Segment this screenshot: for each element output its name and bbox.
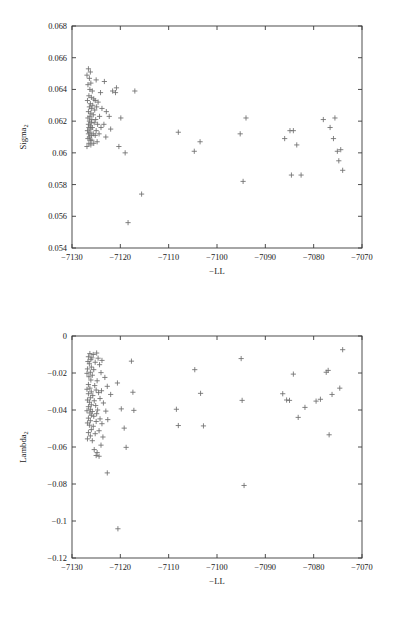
x-tick-label: −7090 [255,563,276,572]
x-tick-label: −7100 [206,563,227,572]
data-point-marker [280,391,285,396]
data-point-marker [84,73,89,78]
data-point-marker [98,90,103,95]
data-point-marker [118,115,123,120]
y-tick-label: 0.056 [48,212,67,221]
y-tick-label: −0.1 [52,517,67,526]
y-axis-label: Sigma2 [18,124,29,149]
figure-page: −7130−7120−7110−7100−7090−7080−70700.054… [0,0,393,621]
data-point-marker [192,149,197,154]
data-point-marker [241,483,246,488]
data-point-marker [238,131,243,136]
data-point-marker [99,106,104,111]
data-point-marker [102,79,107,84]
svg-text:Lambda2: Lambda2 [18,431,29,462]
x-tick-label: −7100 [206,253,227,262]
data-point-marker [198,391,203,396]
data-point-marker [289,172,294,177]
data-point-marker [103,409,108,414]
data-point-marker [85,436,90,441]
data-point-marker [124,445,129,450]
data-point-marker [174,407,179,412]
data-point-marker [105,384,110,389]
data-point-marker [282,136,287,141]
data-point-marker [105,470,110,475]
data-point-marker [99,421,104,426]
data-point-marker [115,526,120,531]
data-point-marker [97,396,102,401]
data-point-marker [92,383,97,388]
data-point-marker [337,386,342,391]
data-point-marker [96,428,101,433]
y-tick-label: −0.06 [48,443,67,452]
x-tick-label: −7070 [351,253,372,262]
data-point-marker [332,115,337,120]
data-point-marker [102,375,107,380]
scatter-plot-sigma2: −7130−7120−7110−7100−7090−7080−70700.054… [0,0,393,310]
x-tick-label: −7130 [61,253,82,262]
data-point-marker [336,158,341,163]
y-tick-label: 0.06 [52,149,67,158]
data-point-marker [95,407,100,412]
svg-text:Sigma2: Sigma2 [18,124,29,149]
data-point-marker [125,220,130,225]
data-point-marker [90,438,95,443]
data-point-marker [243,115,248,120]
data-point-marker [92,447,97,452]
data-point-marker [84,387,89,392]
data-point-marker [105,417,110,422]
data-point-marker [287,398,292,403]
x-axis-label: −LL [209,266,224,276]
x-tick-label: −7090 [255,253,276,262]
y-tick-label: 0.054 [48,244,68,253]
data-point-marker [104,109,109,114]
x-tick-label: −7080 [303,563,324,572]
data-point-marker [299,172,304,177]
data-point-group [84,66,345,225]
data-point-marker [101,400,106,405]
data-point-marker [87,76,92,81]
data-point-marker [291,128,296,133]
data-point-marker [94,77,99,82]
data-point-marker [92,398,97,403]
x-tick-label: −7110 [158,253,179,262]
data-point-marker [116,144,121,149]
chart-panel-sigma2: −7130−7120−7110−7100−7090−7080−70700.054… [0,0,393,310]
x-tick-label: −7110 [158,563,179,572]
data-point-marker [129,359,134,364]
data-point-marker [131,408,136,413]
data-point-marker [328,125,333,130]
y-tick-label: 0.062 [48,117,67,126]
data-point-marker [108,126,113,131]
data-point-marker [192,367,197,372]
data-point-marker [98,443,103,448]
y-tick-label: 0.064 [48,85,68,94]
data-point-marker [201,423,206,428]
data-point-marker [132,88,137,93]
y-tick-label: 0.058 [48,181,67,190]
x-tick-label: −7080 [303,253,324,262]
data-point-marker [85,98,90,103]
data-point-marker [93,431,98,436]
x-tick-label: −7120 [110,253,131,262]
data-point-marker [97,362,102,367]
data-point-marker [97,416,102,421]
x-tick-label: −7130 [61,563,82,572]
data-point-marker [130,390,135,395]
data-point-marker [94,419,99,424]
data-point-marker [101,122,106,127]
x-tick-label: −7070 [351,563,372,572]
data-point-marker [93,360,98,365]
x-axis-label: −LL [209,576,224,586]
data-point-marker [302,405,307,410]
data-point-marker [321,117,326,122]
data-point-marker [93,403,98,408]
data-point-marker [98,370,103,375]
y-tick-label: 0.066 [48,54,67,63]
data-point-marker [119,406,124,411]
data-point-marker [114,85,119,90]
data-point-marker [239,356,244,361]
y-tick-label: −0.12 [48,554,67,563]
data-point-marker [107,114,112,119]
data-point-marker [94,128,99,133]
